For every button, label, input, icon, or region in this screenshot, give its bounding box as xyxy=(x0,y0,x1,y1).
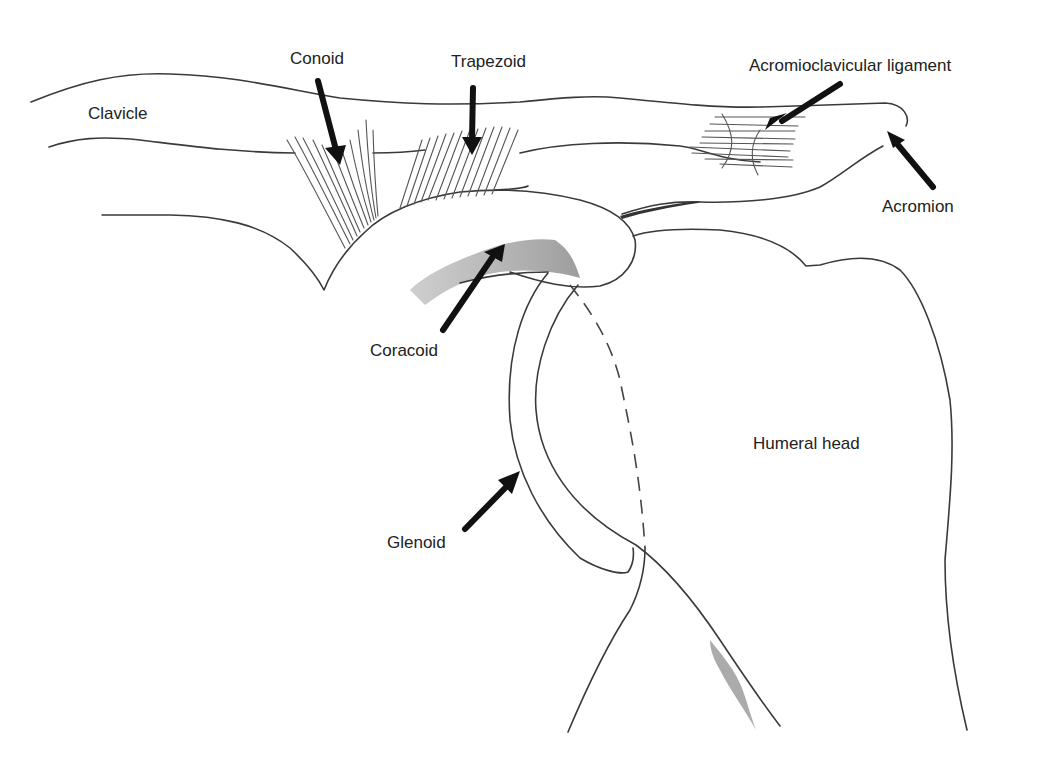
humeral-head-label: Humeral head xyxy=(753,435,860,452)
coracoid-label: Coracoid xyxy=(370,342,438,359)
trapezoid-arrow xyxy=(462,88,482,155)
shoulder-anatomy-diagram xyxy=(0,0,1039,763)
glenoid-outline xyxy=(509,273,780,732)
clavicle-label: Clavicle xyxy=(88,105,148,122)
glenoid-label: Glenoid xyxy=(387,534,446,551)
glenoid-arrow xyxy=(465,471,520,529)
trapezoid-ligament-fibers xyxy=(400,127,518,208)
acromion-label: Acromion xyxy=(882,198,954,215)
ac-ligament-fibers xyxy=(690,114,805,175)
scapula-outline xyxy=(102,190,967,730)
conoid-label: Conoid xyxy=(290,50,344,67)
acromioclavicular-ligament-label: Acromioclavicular ligament xyxy=(749,57,951,74)
inferior-capsule-shading xyxy=(710,640,756,730)
acromion-arrow xyxy=(887,131,933,187)
trapezoid-label: Trapezoid xyxy=(451,53,526,70)
conoid-arrow xyxy=(318,81,346,165)
